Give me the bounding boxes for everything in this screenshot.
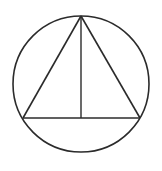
geometry-figure bbox=[0, 0, 162, 171]
diagram-canvas bbox=[0, 0, 162, 171]
triangle-side-right bbox=[81, 16, 140, 118]
triangle-side-left bbox=[23, 16, 81, 118]
